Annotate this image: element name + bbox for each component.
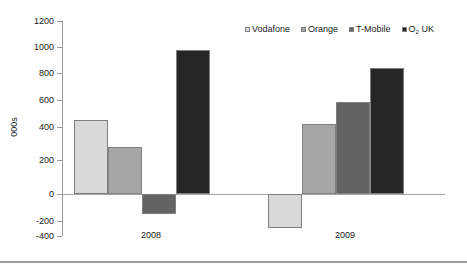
y-tick-mark-1200	[57, 21, 62, 22]
bar-2009-tmobile	[336, 102, 370, 194]
y-tick-mark-1000	[57, 47, 62, 48]
legend-label-tmobile: T-Mobile	[356, 24, 391, 34]
y-axis-title: 000s	[9, 107, 19, 147]
legend-swatch-o2uk	[402, 27, 407, 32]
legend-label-orange: Orange	[308, 24, 338, 34]
y-tick-label-800: 800	[14, 69, 54, 78]
x-axis-label-2009: 2009	[315, 230, 375, 240]
legend-swatch-orange	[301, 27, 306, 32]
y-tick-label-neg400-wrap: -400	[8, 232, 54, 241]
legend-label-o2uk: O2 UK	[409, 24, 434, 34]
legend-label-o2uk-sub: 2	[416, 29, 419, 35]
y-tick-label-400: 400	[14, 123, 54, 132]
legend-item-vodafone[interactable]: Vodafone	[245, 24, 290, 34]
y-tick-label-1200-wrap: 1200	[8, 17, 54, 26]
x-axis-label-2008: 2008	[121, 230, 181, 240]
y-tick-label-200-wrap: 200	[8, 156, 54, 165]
y-tick-label-1000: 1000	[14, 43, 54, 52]
legend-item-o2uk[interactable]: O2 UK	[402, 24, 434, 34]
y-tick-label-200: 200	[14, 156, 54, 165]
y-tick-label-0-wrap: 0	[8, 190, 54, 199]
legend-label-o2uk-suffix: UK	[419, 24, 434, 34]
legend-item-orange[interactable]: Orange	[301, 24, 338, 34]
y-axis-line	[62, 21, 63, 236]
y-tick-label-0: 0	[14, 190, 54, 199]
bar-2009-orange	[302, 124, 336, 194]
legend-swatch-tmobile	[349, 27, 354, 32]
legend-label-vodafone: Vodafone	[252, 24, 290, 34]
bar-2008-o2uk	[176, 50, 210, 194]
legend-item-tmobile[interactable]: T-Mobile	[349, 24, 391, 34]
y-tick-mark-neg400	[57, 236, 62, 237]
bar-2008-vodafone	[74, 120, 108, 194]
y-tick-label-neg200-wrap: -200	[8, 217, 54, 226]
y-tick-mark-200	[57, 160, 62, 161]
y-tick-label-1200: 1200	[14, 17, 54, 26]
bar-2009-o2uk	[370, 68, 404, 194]
bar-2009-vodafone	[268, 194, 302, 228]
bar-chart: 1200 1000 800 600 400 200 0 -200 -400 00…	[0, 0, 467, 272]
y-tick-label-1000-wrap: 1000	[8, 43, 54, 52]
y-tick-label-600: 600	[14, 96, 54, 105]
y-tick-mark-400	[57, 127, 62, 128]
legend-swatch-vodafone	[245, 27, 250, 32]
y-tick-label-800-wrap: 800	[8, 69, 54, 78]
bar-2008-tmobile	[142, 194, 176, 214]
legend: Vodafone Orange T-Mobile O2 UK	[245, 24, 434, 34]
bar-2008-orange	[108, 147, 142, 194]
y-tick-mark-600	[57, 100, 62, 101]
y-tick-mark-800	[57, 73, 62, 74]
zero-baseline	[62, 194, 445, 195]
y-tick-label-neg400: -400	[14, 232, 54, 241]
y-tick-label-600-wrap: 600	[8, 96, 54, 105]
bottom-rule	[0, 261, 467, 263]
y-tick-mark-neg200	[57, 221, 62, 222]
legend-label-o2uk-main: O	[409, 24, 416, 34]
y-tick-label-neg200: -200	[14, 217, 54, 226]
